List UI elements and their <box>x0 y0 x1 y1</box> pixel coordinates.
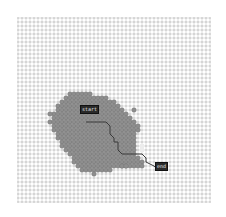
start-label: start <box>80 105 99 114</box>
end-label: end <box>155 162 168 171</box>
grid-canvas <box>0 0 226 217</box>
